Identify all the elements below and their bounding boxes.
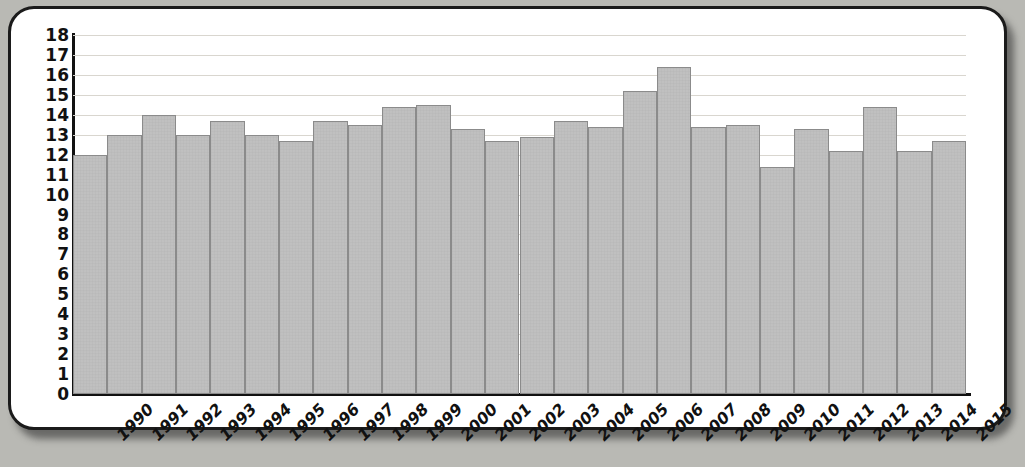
- x-tick-label: 1991: [149, 401, 192, 444]
- x-tick-label: 1994: [252, 401, 295, 444]
- x-tick-label: 2009: [767, 401, 810, 444]
- x-tick-label: 2011: [835, 401, 878, 444]
- y-tick-label: 4: [35, 306, 69, 323]
- x-tick-label: 1997: [355, 401, 398, 444]
- x-tick-label: 2002: [526, 401, 569, 444]
- y-tick-label: 14: [35, 106, 69, 123]
- y-tick-label: 15: [35, 86, 69, 103]
- y-tick-label: 7: [35, 246, 69, 263]
- x-axis-tick-labels: 1990199119921993199419951996199719981999…: [73, 9, 966, 467]
- y-tick-label: 13: [35, 126, 69, 143]
- x-tick-label: 2015: [973, 401, 1016, 444]
- x-tick-label: 1999: [423, 401, 466, 444]
- y-tick-label: 8: [35, 226, 69, 243]
- x-tick-label: 2005: [629, 401, 672, 444]
- x-tick-label: 2007: [698, 401, 741, 444]
- y-tick-label: 0: [35, 386, 69, 403]
- chart-frame: 1817161514131211109876543210 19901991199…: [8, 6, 1007, 430]
- y-axis-tick-labels: 1817161514131211109876543210: [25, 35, 69, 394]
- y-tick-label: 3: [35, 326, 69, 343]
- x-tick-label: 1995: [286, 401, 329, 444]
- x-tick-label: 2013: [904, 401, 947, 444]
- y-tick-label: 12: [35, 146, 69, 163]
- x-tick-label: 1993: [217, 401, 260, 444]
- x-tick-label: 1990: [114, 401, 157, 444]
- x-tick-label: 2012: [870, 401, 913, 444]
- x-tick-label: 2001: [492, 401, 535, 444]
- y-tick-label: 9: [35, 206, 69, 223]
- y-tick-label: 18: [35, 27, 69, 44]
- y-tick-label: 5: [35, 286, 69, 303]
- x-tick-label: 1998: [389, 401, 432, 444]
- x-tick-label: 1992: [183, 401, 226, 444]
- x-tick-label: 2006: [664, 401, 707, 444]
- y-tick-label: 6: [35, 266, 69, 283]
- x-tick-label: 2003: [561, 401, 604, 444]
- x-tick-label: 2000: [458, 401, 501, 444]
- y-tick-label: 16: [35, 66, 69, 83]
- y-tick-label: 10: [35, 186, 69, 203]
- x-tick-label: 2014: [939, 401, 982, 444]
- x-tick-label: 1996: [320, 401, 363, 444]
- y-tick-label: 11: [35, 166, 69, 183]
- x-tick-label: 2010: [801, 401, 844, 444]
- x-tick-label: 2008: [732, 401, 775, 444]
- y-tick-label: 2: [35, 346, 69, 363]
- x-tick-label: 2004: [595, 401, 638, 444]
- y-tick-label: 1: [35, 366, 69, 383]
- y-tick-label: 17: [35, 46, 69, 63]
